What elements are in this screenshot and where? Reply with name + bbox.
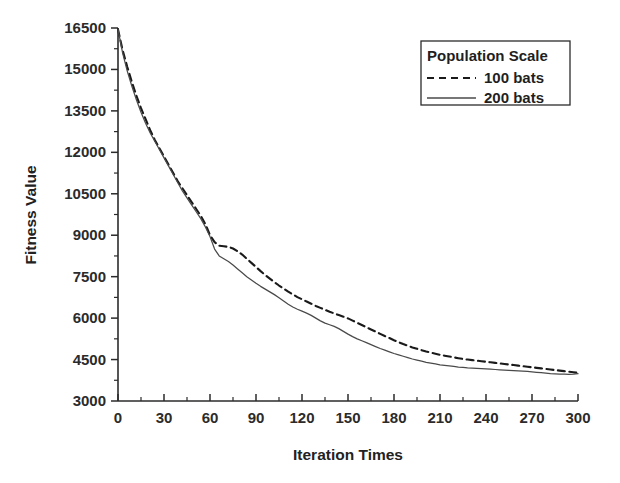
x-tick-label: 240 <box>473 409 498 426</box>
legend-title: Population Scale <box>427 47 548 64</box>
legend-label-200-bats: 200 bats <box>484 89 544 106</box>
y-tick-label: 7500 <box>73 268 106 285</box>
x-tick-label: 300 <box>565 409 590 426</box>
fitness-convergence-chart: 3000450060007500900010500120001350015000… <box>0 0 620 483</box>
x-tick-label: 270 <box>519 409 544 426</box>
chart-figure: 3000450060007500900010500120001350015000… <box>0 0 620 483</box>
y-tick-label: 10500 <box>64 185 106 202</box>
y-tick-label: 9000 <box>73 226 106 243</box>
y-tick-label: 15000 <box>64 60 106 77</box>
y-tick-label: 6000 <box>73 309 106 326</box>
y-axis-title: Fitness Value <box>22 165 39 264</box>
y-tick-label: 4500 <box>73 351 106 368</box>
x-tick-label: 90 <box>248 409 265 426</box>
x-tick-label: 180 <box>381 409 406 426</box>
y-tick-label: 3000 <box>73 392 106 409</box>
x-tick-label: 210 <box>427 409 452 426</box>
x-tick-label: 30 <box>156 409 173 426</box>
y-tick-label: 16500 <box>64 19 106 36</box>
legend-label-100-bats: 100 bats <box>484 69 544 86</box>
x-tick-label: 120 <box>289 409 314 426</box>
y-tick-label: 12000 <box>64 143 106 160</box>
chart-legend[interactable]: Population Scale 100 bats 200 bats <box>421 41 570 106</box>
x-axis-title: Iteration Times <box>293 446 403 463</box>
x-tick-label: 0 <box>114 409 122 426</box>
x-tick-label: 150 <box>335 409 360 426</box>
x-tick-label: 60 <box>202 409 219 426</box>
y-tick-label: 13500 <box>64 102 106 119</box>
